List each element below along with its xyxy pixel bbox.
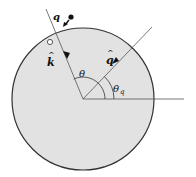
theta-q-label: θ xyxy=(113,83,119,94)
k-hat-mark: ^ xyxy=(48,50,55,59)
charge-dot xyxy=(68,14,73,19)
image-charge-dot xyxy=(47,39,52,44)
theta-q-subscript: q xyxy=(120,88,125,96)
q-hat-mark: ^ xyxy=(107,48,114,57)
theta-label: θ xyxy=(79,68,85,79)
scattering-diagram: q k ^ q ^ θ θ q xyxy=(0,0,196,177)
charge-label: q xyxy=(53,11,60,22)
